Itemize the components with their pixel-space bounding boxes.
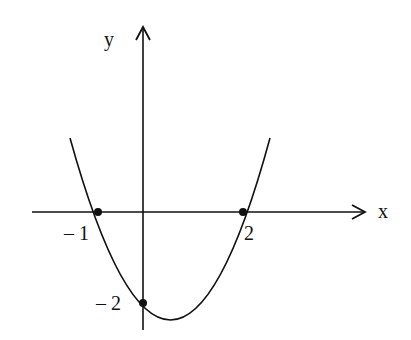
root-left-label: – 1 [63,222,89,244]
root-right-point [239,208,247,216]
y-intercept-label: – 2 [95,292,121,314]
x-axis-label: x [378,200,388,222]
y-intercept-point [139,299,147,307]
y-axis-label: y [104,28,114,51]
root-left-point [94,208,102,216]
parabola-graph: y x – 1 2 – 2 [0,0,411,340]
root-right-label: 2 [244,222,254,244]
